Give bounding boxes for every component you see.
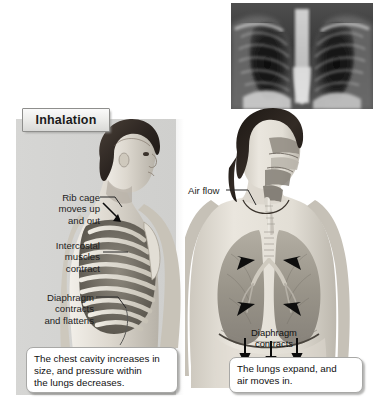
illustration-canvas: Rib cage moves up and out Intercostal mu… (0, 0, 374, 408)
inhalation-title-text: Inhalation (35, 113, 96, 127)
caption-right-text: The lungs expand, and air moves in. (237, 363, 355, 387)
caption-box-left: The chest cavity increases in size, and … (26, 347, 178, 393)
label-diaphragm-flattens: Diaphragm contracts and flattens (16, 292, 94, 326)
label-air-flow: Air flow (188, 185, 219, 196)
caption-box-right: The lungs expand, and air moves in. (229, 357, 363, 393)
label-rib-cage: Rib cage moves up and out (26, 192, 100, 226)
chest-x-ray-image (231, 3, 373, 109)
inhalation-title-box: Inhalation (22, 108, 110, 132)
label-diaphragm-contracts: Diaphragm contracts (235, 327, 313, 349)
label-intercostal-muscles: Intercostal muscles contract (20, 240, 100, 274)
caption-left-text: The chest cavity increases in size, and … (34, 353, 170, 388)
